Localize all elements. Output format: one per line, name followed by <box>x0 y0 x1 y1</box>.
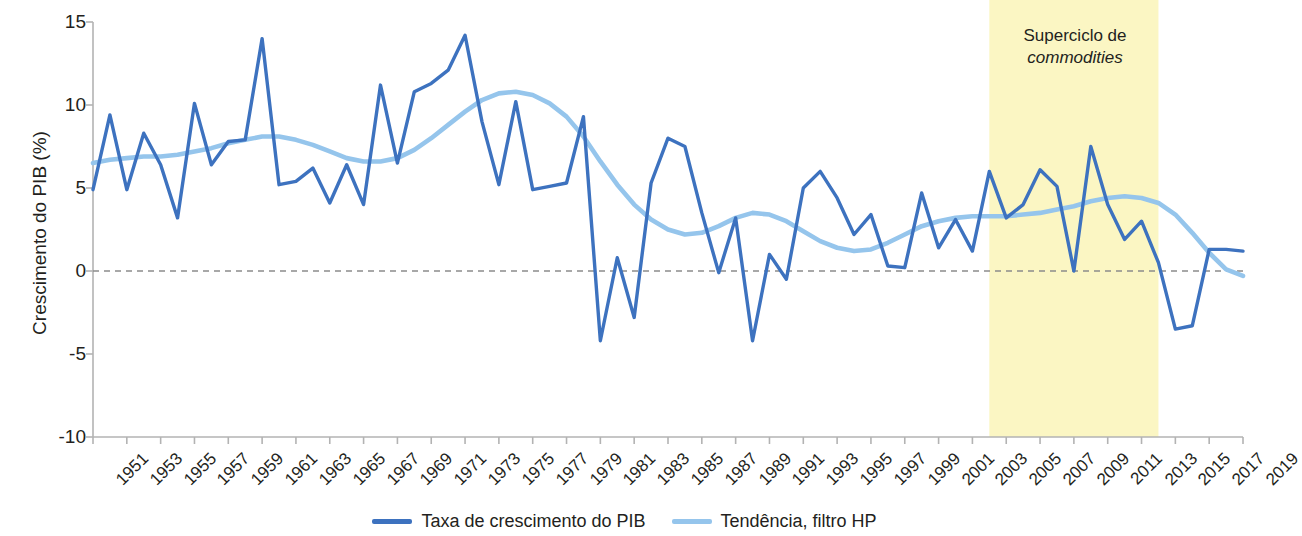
band-annotation-line2: commodities <box>1027 48 1122 67</box>
y-tick-label: 0 <box>75 260 86 282</box>
legend-item: Taxa de crescimento do PIB <box>372 511 645 532</box>
chart-legend: Taxa de crescimento do PIBTendência, fil… <box>0 511 1249 532</box>
legend-swatch <box>672 519 712 524</box>
y-tick-label: -10 <box>59 426 86 448</box>
legend-swatch <box>372 519 412 524</box>
legend-label: Tendência, filtro HP <box>721 511 877 532</box>
band-annotation-label: Superciclo de commodities <box>995 25 1155 69</box>
legend-item: Tendência, filtro HP <box>672 511 877 532</box>
y-tick-label: -5 <box>69 343 86 365</box>
y-tick-label: 10 <box>65 94 86 116</box>
x-tick-label: 2019 <box>1262 449 1302 490</box>
legend-label: Taxa de crescimento do PIB <box>421 511 645 532</box>
band-annotation-line1: Superciclo de <box>1023 26 1126 45</box>
y-tick-label: 15 <box>65 11 86 33</box>
y-tick-label: 5 <box>75 177 86 199</box>
